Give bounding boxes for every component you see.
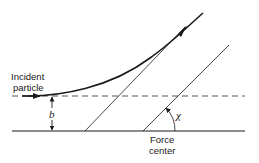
particle-trajectory	[28, 13, 203, 96]
force-center-direction-line	[143, 45, 229, 131]
force-center-label-line1: Force	[150, 134, 174, 145]
incident-particle-label-line2: particle	[13, 82, 44, 93]
scattering-angle-label: χ	[175, 109, 182, 121]
scattering-angle-arc	[166, 108, 175, 131]
incident-particle-label-line1: Incident	[11, 71, 45, 82]
impact-parameter-label: b	[49, 108, 55, 120]
scattering-diagram: b χ Incident particle Force center	[0, 0, 259, 163]
trajectory-arrow-icon	[178, 25, 187, 37]
force-center-label-line2: center	[149, 145, 175, 156]
